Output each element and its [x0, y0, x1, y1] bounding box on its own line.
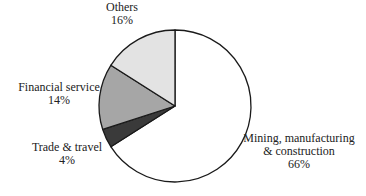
slice-label-financial-service-value: 14%: [18, 94, 100, 107]
slice-label-others-value: 16%: [106, 14, 138, 27]
slice-label-mining: Mining, manufacturing & construction 66%: [243, 132, 354, 171]
slice-label-trade-travel: Trade & travel 4%: [32, 141, 102, 167]
slice-label-mining-value: 66%: [243, 158, 354, 171]
slice-label-trade-travel-value: 4%: [32, 154, 102, 167]
pie-slices: [99, 30, 251, 182]
slice-label-financial-service: Financial service 14%: [18, 81, 100, 107]
slice-label-others: Others 16%: [106, 1, 138, 27]
